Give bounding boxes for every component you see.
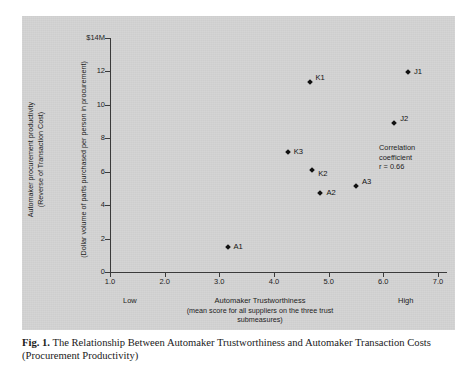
x-tick-label: 1.0 <box>90 277 130 286</box>
x-tick-label: 6.0 <box>363 277 403 286</box>
data-point-label: J1 <box>414 68 422 76</box>
y-tick-label-text: 0 <box>65 268 105 276</box>
correlation-line2: coefficient <box>379 153 449 163</box>
x-tick-label: 5.0 <box>309 277 349 286</box>
x-tick-label: 3.0 <box>199 277 239 286</box>
y-axis-title-primary: Automaker procurement productivity (Reve… <box>26 65 45 255</box>
data-point-marker <box>391 120 397 126</box>
data-point-label: A3 <box>362 178 371 186</box>
x-tick-label: 2.0 <box>145 277 185 286</box>
y-axis-line <box>110 38 111 272</box>
correlation-line1: Correlation <box>379 143 449 153</box>
y-tick-label: 0 <box>62 268 105 277</box>
x-axis-anchor-low: Low <box>123 296 137 305</box>
data-point-label: A2 <box>326 189 335 197</box>
data-point-marker <box>318 191 324 197</box>
y-tick <box>105 71 110 72</box>
data-point-label: K3 <box>294 148 303 156</box>
x-tick-label: 7.0 <box>418 277 458 286</box>
correlation-annotation: Correlation coefficient r = 0.66 <box>379 143 449 172</box>
data-point-marker <box>225 244 231 250</box>
y-tick-label-text: $14M <box>65 34 105 42</box>
correlation-line3: r = 0.66 <box>379 162 449 172</box>
x-axis-line <box>110 272 447 273</box>
y-tick <box>105 138 110 139</box>
x-axis-title-line1: Automaker Trustworthiness <box>215 296 306 305</box>
figure-caption-prefix: Fig. 1. <box>22 337 50 348</box>
y-tick <box>105 205 110 206</box>
y-tick <box>105 239 110 240</box>
x-axis-title: Automaker Trustworthiness (mean score fo… <box>160 296 360 325</box>
data-point-marker <box>405 69 411 75</box>
y-axis-title-line2: (Reverse of Transaction Cost) <box>35 65 45 255</box>
data-point-label: A1 <box>234 243 243 251</box>
figure-caption-text: The Relationship Between Automaker Trust… <box>22 337 431 361</box>
data-point-label: J2 <box>400 115 408 123</box>
data-point-marker <box>307 79 313 85</box>
y-axis-title-secondary: (Dollar volume of parts purchased per pe… <box>79 55 88 265</box>
scatter-plot: 024681012$14M 1.02.03.04.05.06.07.0 Auto… <box>0 0 476 373</box>
data-point-marker <box>309 167 315 173</box>
x-axis-title-line2: (mean score for all suppliers on the thr… <box>160 306 360 316</box>
x-axis-title-line3: submeasures) <box>160 315 360 325</box>
x-axis-anchor-high: High <box>398 296 413 305</box>
data-point-marker <box>353 183 359 189</box>
y-tick-label: $14M <box>62 34 105 43</box>
data-point-label: K1 <box>316 74 325 82</box>
figure-page: 024681012$14M 1.02.03.04.05.06.07.0 Auto… <box>0 0 476 373</box>
x-tick-label: 4.0 <box>254 277 294 286</box>
y-tick <box>105 172 110 173</box>
y-tick <box>105 105 110 106</box>
y-axis-title-line1: Automaker procurement productivity <box>26 102 35 217</box>
data-point-marker <box>285 149 291 155</box>
figure-caption: Fig. 1. The Relationship Between Automak… <box>22 336 468 362</box>
data-point-label: K2 <box>318 170 327 178</box>
y-axis-title-line3: (Dollar volume of parts purchased per pe… <box>79 61 88 258</box>
y-tick <box>105 38 110 39</box>
